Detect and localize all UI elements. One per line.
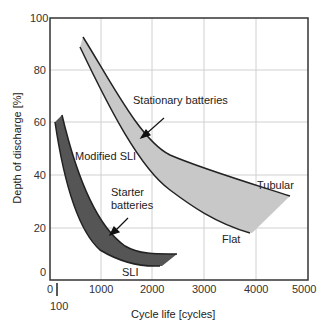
label-flat: Flat (222, 233, 240, 245)
y-tick-80: 80 (30, 64, 46, 76)
y-tick-100: 100 (30, 12, 46, 24)
label-modified-sli: Modified SLI (75, 150, 136, 162)
x-tick-100-label: 100 (50, 300, 68, 312)
y-tick-0: 0 (30, 266, 46, 278)
x-tick-4000: 4000 (244, 283, 268, 295)
x-tick-5000: 5000 (292, 283, 316, 295)
label-starter: Starter (111, 186, 144, 198)
label-sli: SLI (122, 266, 139, 278)
x-tick-3000: 3000 (192, 283, 216, 295)
x-tick-2000: 2000 (140, 283, 164, 295)
y-tick-40: 40 (30, 169, 46, 181)
y-tick-60: 60 (30, 116, 46, 128)
label-stationary-batteries: Stationary batteries (133, 94, 228, 106)
x-axis-title: Cycle life [cycles] (131, 308, 215, 320)
y-axis-title: Depth of discharge [%] (11, 88, 23, 208)
label-starter-batteries: batteries (111, 199, 153, 211)
label-tubular: Tubular (257, 179, 294, 191)
y-tick-20: 20 (30, 222, 46, 234)
x-tick-1000: 1000 (89, 283, 113, 295)
x-tick-0: 0 (47, 283, 53, 295)
